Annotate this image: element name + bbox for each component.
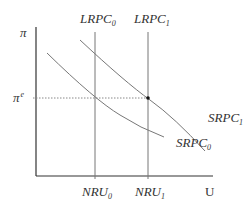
lrpc0-label: LRPC0: [79, 11, 116, 28]
x-axis-label: U: [205, 184, 215, 199]
expected-inflation-label: πe: [13, 90, 25, 105]
srpc1-label: SRPC1: [208, 110, 243, 127]
y-axis-label: π: [20, 25, 27, 40]
phillips-curve-diagram: π πe LRPC0 LRPC1 SRPC1 SRPC0 NRU0 NRU1 U: [0, 0, 250, 210]
srpc0-label: SRPC0: [176, 135, 211, 152]
nru0-label: NRU0: [81, 184, 112, 201]
lrpc1-label: LRPC1: [133, 11, 170, 28]
equilibrium-point: [146, 96, 150, 100]
nru1-label: NRU1: [134, 184, 165, 201]
srpc0-curve: [47, 53, 164, 137]
